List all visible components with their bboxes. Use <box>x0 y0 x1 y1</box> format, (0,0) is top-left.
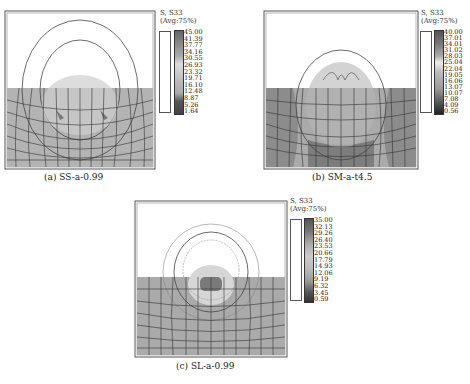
legend-title-a: S, S33 (Avg:75%) <box>160 9 197 25</box>
legend-value: 0.56 <box>444 108 463 114</box>
contour-plot-b <box>263 10 419 170</box>
legend-colorbar-a <box>174 30 184 115</box>
legend-variable: S, S33 <box>421 9 444 17</box>
legend-labels-a: 45.00 41.39 37.77 34.16 30.55 26.93 23.3… <box>184 29 203 115</box>
legend-value: 0.59 <box>314 296 333 303</box>
caption-a: (a) SS-a-0.99 <box>44 172 103 182</box>
legend-swatch-outline-c <box>290 219 302 301</box>
panel-a: S, S33 (Avg:75%) 45.00 41.39 37.77 34.16… <box>0 0 235 180</box>
caption-c: (c) SL-a-0.99 <box>176 361 235 371</box>
legend-averaging: (Avg:75%) <box>160 17 197 25</box>
legend-averaging: (Avg:75%) <box>290 205 327 213</box>
legend-value: 1.64 <box>184 108 203 115</box>
legend-title-c: S, S33 (Avg:75%) <box>290 197 327 213</box>
legend-labels-c: 35.00 32.13 29.26 26.40 23.53 20.66 17.7… <box>314 217 333 303</box>
legend-swatch-outline-a <box>159 31 171 113</box>
legend-averaging: (Avg:75%) <box>421 17 458 25</box>
legend-swatch-outline-b <box>420 31 432 113</box>
legend-variable: S, S33 <box>290 197 313 205</box>
legend-title-b: S, S33 (Avg:75%) <box>421 9 458 25</box>
legend-colorbar-b <box>434 30 444 115</box>
legend-colorbar-c <box>304 218 314 303</box>
panel-c: S, S33 (Avg:75%) 35.00 32.13 29.26 26.40… <box>120 180 360 384</box>
legend-labels-b: 40.00 37.01 34.01 31.02 28.03 25.04 22.0… <box>444 29 463 114</box>
legend-variable: S, S33 <box>160 9 183 17</box>
contour-plot-a <box>4 10 156 170</box>
panel-b: S, S33 (Avg:75%) 40.00 37.01 34.01 31.02… <box>235 0 470 180</box>
contour-plot-c <box>134 200 288 358</box>
